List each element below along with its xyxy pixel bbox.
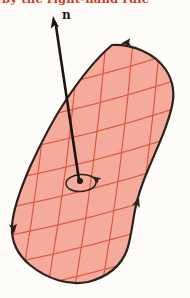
surface-region [12, 45, 173, 283]
oriented-surface-diagram-svg: n [0, 0, 190, 298]
base-point-dot [77, 178, 83, 184]
normal-vector-label: n [62, 8, 71, 22]
normal-vector-arrowhead-icon [49, 15, 59, 28]
stokes-theorem-figure: by the right-hand rule [0, 0, 190, 298]
